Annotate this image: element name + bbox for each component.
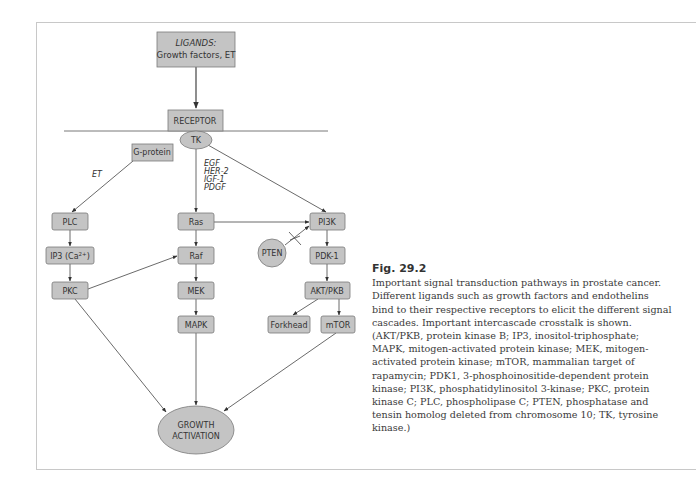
- mek-label: MEK: [187, 287, 205, 296]
- mapk-label: MAPK: [185, 321, 208, 330]
- growth-activation-line2: ACTIVATION: [172, 432, 220, 441]
- et-edge-label: ET: [92, 170, 103, 179]
- ras-label: Ras: [189, 218, 203, 227]
- edge-pten-pi3k: [285, 226, 309, 245]
- ip3-label-main: IP3 (Ca: [50, 252, 79, 261]
- edge-tk-pi3k: [208, 145, 326, 212]
- tk-label: TK: [190, 136, 202, 145]
- pten-label: PTEN: [262, 249, 283, 258]
- receptor-label: RECEPTOR: [174, 117, 217, 126]
- growth-factor-label: PDGF: [204, 183, 226, 192]
- ligands-subtitle: Growth factors, ET: [157, 50, 237, 60]
- figure-title: Fig. 29.2: [372, 262, 672, 275]
- growth-activation-node: [158, 406, 234, 454]
- figure-caption: Fig. 29.2 Important signal transduction …: [372, 262, 672, 435]
- pkc-label: PKC: [62, 287, 78, 296]
- pdk1-label: PDK-1: [315, 252, 338, 261]
- growth-activation-line1: GROWTH: [178, 421, 215, 430]
- pi3k-label: PI3K: [318, 218, 336, 227]
- signal-pathway-diagram: LIGANDS: Growth factors, ET RECEPTOR TK …: [0, 0, 370, 489]
- forkhead-label: Forkhead: [270, 321, 307, 330]
- g-protein-label: G-protein: [133, 148, 171, 157]
- edge-pkc-growth: [75, 299, 166, 412]
- edge-pkc-raf: [88, 256, 177, 289]
- figure-caption-text: Important signal transduction pathways i…: [372, 277, 672, 433]
- edge-akt-forkhead: [293, 299, 318, 315]
- ip3-label-close: ): [87, 252, 90, 261]
- edge-mtor-growth: [224, 333, 336, 411]
- ligands-title: LIGANDS:: [176, 38, 217, 48]
- plc-label: PLC: [63, 218, 78, 227]
- growth-factor-labels: EGF HER-2 IGF-1 PDGF: [204, 159, 229, 192]
- raf-label: Raf: [189, 252, 202, 261]
- edge-gprotein-plc: [72, 161, 133, 212]
- akt-pkb-label: AKT/PKB: [310, 287, 343, 296]
- mtor-label: mTOR: [326, 321, 351, 330]
